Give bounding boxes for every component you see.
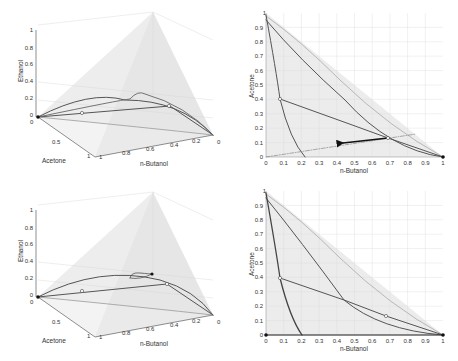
y-axis-label: Acetone [42,337,66,344]
x-tick: 0.8 [122,330,131,336]
x-axis-label: n-Butanol [140,340,168,347]
z-tick: 0 [30,292,34,298]
x-tick: 0 [217,139,221,145]
y-tick: 0.1 [255,318,264,324]
panel-bottom-left-3d: 1 0.8 0.6 0.4 0.2 0 Ethanol 0 0.5 1 1 0.… [17,192,221,347]
y-tick: 0.6 [255,68,264,74]
x-tick: 0.7 [386,160,395,166]
x-tick: 1 [441,160,445,166]
x-tick: 0.2 [297,338,306,344]
z-tick: 0.2 [25,95,34,101]
x-tick: 0.1 [280,160,289,166]
y-tick: 0 [30,299,34,305]
z-tick: 0.4 [25,78,34,84]
y-tick: 0.8 [255,39,264,45]
x-tick: 0.2 [297,160,306,166]
x-tick: 0.4 [333,160,342,166]
y-tick: 0.4 [255,96,264,102]
y-tick: 0.5 [255,260,264,266]
x-tick: 0 [264,160,268,166]
x-tick: 0.2 [192,138,201,144]
y-tick: 0.9 [255,25,264,31]
x-tick: 0.6 [368,160,377,166]
z-tick: 0.6 [25,61,34,67]
y-tick: 0.4 [255,274,264,280]
z-tick: 0.6 [25,241,34,247]
y-axis-label: Acetone [42,157,66,164]
x-tick: 0.2 [192,318,201,324]
y-tick: 0.7 [255,53,264,59]
y-tick: 0.7 [255,231,264,237]
z-tick: 0.4 [25,258,34,264]
y-axis-label: Acetone [248,252,255,276]
z-tick: 1 [30,207,34,213]
x-tick: 0.6 [146,146,155,152]
x-tick: 0.5 [350,160,359,166]
z-tick: 0.8 [25,225,34,231]
y-tick: 0.5 [255,82,264,88]
y-tick: 0.3 [255,289,264,295]
x-tick: 0.1 [280,338,289,344]
x-tick: 1 [441,338,445,344]
x-tick: 0.9 [421,160,430,166]
x-tick: 0 [217,319,221,325]
x-tick: 0.3 [315,338,324,344]
panel-top-left-3d: 1 0.8 0.6 0.4 0.2 0 Ethanol 0 0.5 1 1 0.… [17,12,221,167]
x-tick: 0.6 [146,326,155,332]
y-tick: 0.5 [52,319,61,325]
panel-bottom-right-2d: 0 0.1 0.2 0.3 0.4 0.5 0.6 0.7 0.8 0.9 1 … [248,188,445,352]
x-tick: 0.3 [315,160,324,166]
y-tick: 0 [260,332,264,338]
y-tick: 0.2 [255,303,264,309]
x-tick: 0.8 [403,338,412,344]
y-tick: 0.8 [255,217,264,223]
x-tick: 0.5 [350,338,359,344]
x-tick: 0.4 [170,322,179,328]
z-tick: 0.8 [25,45,34,51]
x-tick: 0.8 [403,160,412,166]
x-tick: 0.4 [333,338,342,344]
y-tick: 0.9 [255,203,264,209]
z-tick: 0 [30,112,34,118]
x-tick: 0 [264,338,268,344]
y-tick: 0 [260,154,264,160]
figure: 1 0.8 0.6 0.4 0.2 0 Ethanol 0 0.5 1 1 0.… [0,0,458,361]
z-axis-label: Ethanol [17,239,24,262]
x-axis-label: n-Butanol [340,167,368,174]
y-tick: 0.6 [255,246,264,252]
x-tick: 0.7 [386,338,395,344]
y-tick: 0.1 [255,140,264,146]
x-tick: 0.9 [421,338,430,344]
z-tick: 1 [30,27,34,33]
panel-top-right-2d: 0 0.1 0.2 0.3 0.4 0.5 0.6 0.7 0.8 0.9 1 … [248,10,445,174]
y-tick: 0.5 [52,139,61,145]
x-axis-label: n-Butanol [340,345,368,352]
y-tick: 0 [30,119,34,125]
x-axis-label: n-Butanol [140,160,168,167]
y-axis-label: Acetone [248,74,255,98]
z-tick: 0.2 [25,275,34,281]
z-axis-label: Ethanol [17,59,24,82]
chart-canvas: 1 0.8 0.6 0.4 0.2 0 Ethanol 0 0.5 1 1 0.… [0,0,458,361]
x-tick: 0.8 [122,150,131,156]
x-tick: 0.6 [368,338,377,344]
y-tick: 0.3 [255,111,264,117]
y-tick: 0.2 [255,125,264,131]
x-tick: 0.4 [170,142,179,148]
